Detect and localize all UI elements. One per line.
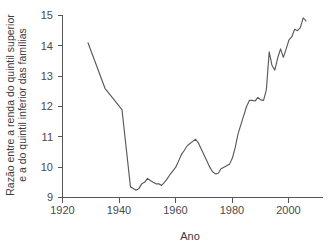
- y-tick-label-12: 12: [41, 100, 53, 112]
- chart-figure: Razão entre a renda do quintil superior …: [0, 0, 334, 249]
- y-axis-title-line2: e a do quintil inferior das famílias: [16, 28, 28, 182]
- x-tick-label-1940: 1940: [107, 204, 131, 216]
- y-tick-label-9: 9: [47, 191, 53, 203]
- x-tick-label-1960: 1960: [163, 204, 187, 216]
- y-tick-label-13: 13: [41, 70, 53, 82]
- y-tick-label-14: 14: [41, 40, 53, 52]
- y-axis-title: Razão entre a renda do quintil superior …: [4, 14, 28, 196]
- x-axis-ticks: [63, 198, 289, 203]
- y-axis-tick-labels: 9 10 11 12 13 14 15: [41, 9, 53, 203]
- y-tick-label-11: 11: [42, 131, 53, 143]
- y-tick-label-15: 15: [41, 9, 53, 21]
- x-axis-title: Ano: [180, 230, 200, 242]
- x-tick-label-1980: 1980: [220, 204, 244, 216]
- line-chart-plot: Razão entre a renda do quintil superior …: [0, 0, 334, 249]
- y-axis-title-line1: Razão entre a renda do quintil superior: [4, 14, 16, 196]
- y-tick-label-10: 10: [41, 161, 53, 173]
- x-tick-label-1920: 1920: [50, 204, 74, 216]
- x-axis-tick-labels: 1920 1940 1960 1980 2000: [50, 204, 300, 216]
- x-tick-label-2000: 2000: [276, 204, 300, 216]
- y-axis-ticks: [58, 16, 63, 198]
- data-series-line: [88, 18, 306, 190]
